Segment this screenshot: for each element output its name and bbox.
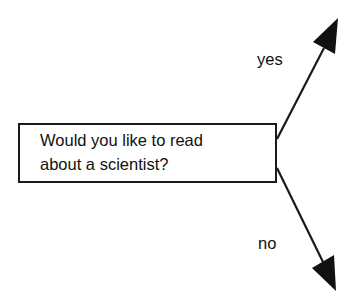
question-line-2: about a scientist?: [40, 155, 168, 173]
question-box: Would you like to read about a scientist…: [18, 123, 277, 183]
no-label: no: [258, 234, 276, 252]
yes-label: yes: [257, 50, 283, 68]
yes-arrow: [277, 18, 338, 139]
arrowhead-down-icon: [312, 255, 336, 291]
no-arrow: [277, 168, 336, 291]
question-line-1: Would you like to read: [40, 131, 203, 149]
question-text: Would you like to read about a scientist…: [40, 128, 203, 176]
arrowhead-up-icon: [313, 18, 338, 54]
